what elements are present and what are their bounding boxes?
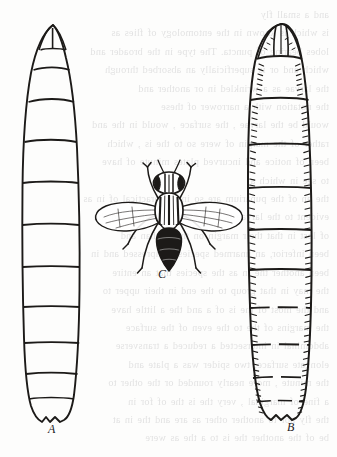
figure-label-a: A — [48, 422, 56, 437]
figure-larva-a: A — [6, 18, 106, 430]
fly-c-drawing — [96, 160, 243, 273]
larva-b-drawing — [248, 24, 312, 420]
spinule-bands — [250, 38, 311, 413]
figure-label-b: B — [287, 420, 295, 435]
larva-a-drawing — [22, 25, 79, 422]
illustration-plate: and a small flyis which is known in the … — [0, 0, 337, 457]
figure-label-c: C — [158, 267, 166, 282]
figure-fly-c: C — [92, 160, 247, 285]
figure-larva-b: B — [238, 18, 337, 430]
